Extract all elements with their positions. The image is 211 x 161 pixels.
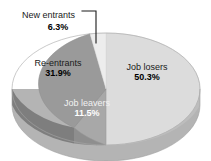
slice-label-new-entrants-name: New entrants bbox=[22, 10, 75, 20]
pie-chart: New entrants 6.3% Job losers 50.3% Re-en… bbox=[0, 0, 211, 161]
slice-label-job-leavers-value: 11.5% bbox=[52, 108, 122, 118]
slice-label-re-entrants-name: Re-entrants bbox=[22, 58, 94, 68]
slice-label-job-losers-value: 50.3% bbox=[114, 72, 180, 82]
slice-label-new-entrants-value: 6.3% bbox=[22, 22, 94, 32]
slice-label-new-entrants: New entrants 6.3% bbox=[22, 4, 94, 32]
slice-label-re-entrants-value: 31.9% bbox=[22, 68, 94, 78]
slice-label-job-losers: Job losers 50.3% bbox=[114, 62, 180, 82]
slice-label-job-losers-name: Job losers bbox=[114, 62, 180, 72]
slice-label-re-entrants: Re-entrants 31.9% bbox=[22, 58, 94, 78]
slice-label-job-leavers-name: Job leavers bbox=[52, 98, 122, 108]
slice-label-job-leavers: Job leavers 11.5% bbox=[52, 98, 122, 118]
